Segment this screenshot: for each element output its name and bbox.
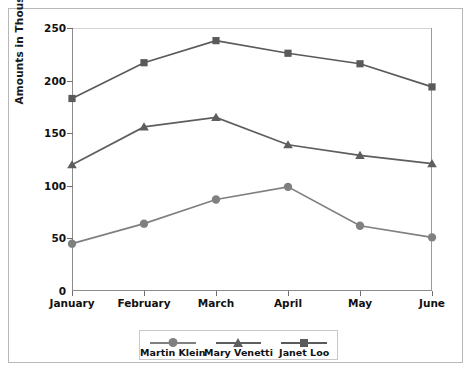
plot-area [72,28,432,291]
legend-marker-triangle-icon [233,338,243,347]
legend-item-square[interactable]: Janet Loo [271,331,337,361]
y-tick-mark [67,133,73,134]
legend-item-circle[interactable]: Martin Klein [140,331,206,361]
y-tick-mark [67,238,73,239]
legend-item-triangle[interactable]: Mary Venetti [206,331,272,361]
plot-top-border [72,28,432,29]
legend-label: Mary Venetti [204,347,273,358]
x-tick-mark [144,291,145,296]
y-tick-label: 250 [22,22,66,34]
x-tick-mark [72,291,73,296]
legend: Martin KleinMary VenettiJanet Loo [139,330,338,360]
y-tick-mark [67,186,73,187]
y-tick-label: 0 [22,285,66,297]
chart-screenshot: Amounts in Thousands 050100150200250 Jan… [0,0,471,373]
x-tick-label: May [348,297,372,309]
legend-marker-square-icon [300,339,308,347]
x-tick-mark [288,291,289,296]
y-tick-mark [67,81,73,82]
x-tick-mark [432,291,433,296]
legend-label: Martin Klein [140,347,206,358]
legend-label: Janet Loo [279,347,329,358]
x-tick-label: March [198,297,234,309]
y-tick-label: 50 [22,232,66,244]
legend-marker-circle-icon [168,338,177,347]
y-tick-label: 200 [22,75,66,87]
x-tick-mark [216,291,217,296]
x-tick-label: June [419,297,445,309]
x-tick-label: April [274,297,302,309]
plot-right-border [431,28,432,291]
x-tick-label: February [117,297,170,309]
y-tick-label: 150 [22,127,66,139]
y-tick-mark [67,28,73,29]
y-tick-label: 100 [22,180,66,192]
x-tick-label: January [49,297,94,309]
y-axis-title: Amounts in Thousands [10,0,28,116]
x-tick-mark [360,291,361,296]
